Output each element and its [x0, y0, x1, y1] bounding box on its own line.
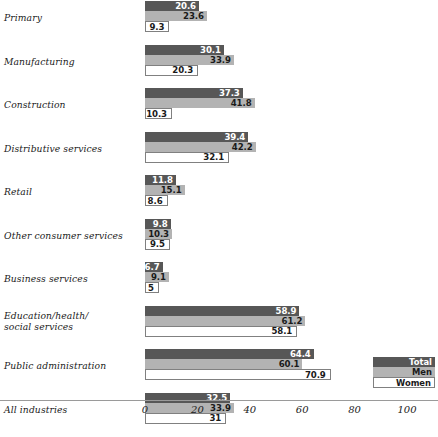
- bar-value-label: 10.3: [148, 229, 169, 239]
- bar-value-label: 15.1: [161, 185, 182, 195]
- bar-group: 58.961.258.1: [145, 305, 438, 349]
- bar-women: 9.5: [145, 239, 170, 250]
- bar-chart: Primary20.623.69.3Manufacturing30.133.92…: [0, 0, 438, 437]
- bar-value-label: 32.1: [203, 152, 224, 162]
- chart-row: Construction37.341.810.3: [0, 87, 438, 131]
- legend-label: Women: [396, 378, 431, 388]
- bar-total: 64.4: [145, 349, 314, 359]
- bar-women: 20.3: [145, 65, 198, 76]
- category-label: Manufacturing: [4, 56, 136, 68]
- bar-total: 37.3: [145, 88, 243, 98]
- category-label: Primary: [4, 12, 136, 24]
- chart-row: Education/health/social services58.961.2…: [0, 305, 438, 349]
- bar-value-label: 6.7: [145, 262, 160, 272]
- legend-item-women: Women: [373, 377, 435, 388]
- legend-item-total: Total: [373, 357, 435, 367]
- bar-women: 9.3: [145, 21, 169, 32]
- category-label: Construction: [4, 99, 136, 111]
- bar-value-label: 10.3: [146, 109, 167, 119]
- category-label: Business services: [4, 273, 136, 285]
- chart-row: Business services6.79.15: [0, 261, 438, 305]
- x-tick-label: 40: [243, 404, 256, 415]
- bar-value-label: 41.8: [231, 98, 252, 108]
- bar-value-label: 33.9: [210, 55, 231, 65]
- bar-value-label: 39.4: [224, 132, 245, 142]
- chart-row: Retail11.815.18.6: [0, 174, 438, 218]
- bar-men: 10.3: [145, 229, 172, 239]
- bar-value-label: 64.4: [290, 349, 311, 359]
- bar-men: 9.1: [145, 272, 169, 282]
- x-tick-label: 100: [397, 404, 416, 415]
- bar-group: 37.341.810.3: [145, 87, 438, 131]
- bar-total: 30.1: [145, 45, 224, 55]
- category-label: Education/health/social services: [4, 310, 136, 333]
- chart-row: Other consumer services9.810.39.5: [0, 218, 438, 262]
- bar-total: 6.7: [145, 262, 163, 272]
- bar-men: 23.6: [145, 11, 207, 21]
- bar-value-label: 30.1: [200, 45, 221, 55]
- bar-total: 32.5: [145, 393, 230, 403]
- bar-value-label: 20.3: [172, 65, 193, 75]
- legend-label: Men: [412, 367, 432, 377]
- bar-total: 20.6: [145, 1, 199, 11]
- x-axis-line: [0, 400, 438, 401]
- bar-women: 70.9: [145, 369, 331, 380]
- bar-value-label: 20.6: [175, 1, 196, 11]
- bar-value-label: 37.3: [219, 88, 240, 98]
- bar-value-label: 9.3: [149, 22, 164, 32]
- category-label: Public administration: [4, 360, 136, 372]
- bar-group: 39.442.232.1: [145, 131, 438, 175]
- x-tick-label: 20: [191, 404, 204, 415]
- chart-row: Primary20.623.69.3: [0, 0, 438, 44]
- bar-value-label: 9.8: [153, 219, 168, 229]
- bar-value-label: 42.2: [232, 142, 253, 152]
- bar-group: 20.623.69.3: [145, 0, 438, 44]
- x-tick-label: 60: [296, 404, 309, 415]
- chart-legend: TotalMenWomen: [373, 357, 435, 388]
- bar-value-label: 60.1: [279, 359, 300, 369]
- chart-row: Distributive services39.442.232.1: [0, 131, 438, 175]
- bar-men: 60.1: [145, 359, 302, 369]
- bar-value-label: 8.6: [148, 196, 163, 206]
- chart-row: Manufacturing30.133.920.3: [0, 44, 438, 88]
- bar-value-label: 23.6: [183, 11, 204, 21]
- category-label: Distributive services: [4, 143, 136, 155]
- bar-group: 30.133.920.3: [145, 44, 438, 88]
- bar-group: 6.79.15: [145, 261, 438, 305]
- bar-group: 9.810.39.5: [145, 218, 438, 262]
- bar-value-label: 58.1: [271, 326, 292, 336]
- bar-women: 5: [145, 282, 159, 293]
- category-label: Retail: [4, 186, 136, 198]
- bar-men: 41.8: [145, 98, 255, 108]
- bar-value-label: 9.1: [151, 272, 166, 282]
- bar-men: 61.2: [145, 316, 305, 326]
- bar-total: 9.8: [145, 219, 171, 229]
- bar-total: 39.4: [145, 132, 248, 142]
- bar-women: 32.1: [145, 152, 229, 163]
- bar-value-label: 61.2: [282, 316, 303, 326]
- bar-women: 10.3: [145, 108, 172, 119]
- x-tick-label: 80: [348, 404, 361, 415]
- bar-value-label: 32.5: [206, 393, 227, 403]
- bar-value-label: 9.5: [150, 239, 165, 249]
- bar-value-label: 58.9: [276, 306, 297, 316]
- bar-men: 42.2: [145, 142, 256, 152]
- bar-value-label: 5: [148, 283, 154, 293]
- x-axis-ticks: 020406080100: [0, 404, 438, 424]
- bar-women: 58.1: [145, 326, 297, 337]
- bar-total: 11.8: [145, 175, 176, 185]
- bar-value-label: 11.8: [152, 175, 173, 185]
- bar-group: 11.815.18.6: [145, 174, 438, 218]
- bar-men: 33.9: [145, 55, 234, 65]
- bar-value-label: 70.9: [305, 370, 326, 380]
- category-label: Other consumer services: [4, 230, 136, 242]
- legend-item-men: Men: [373, 367, 435, 377]
- bar-women: 8.6: [145, 195, 168, 206]
- x-tick-label: 0: [142, 404, 148, 415]
- bar-men: 15.1: [145, 185, 185, 195]
- bar-total: 58.9: [145, 306, 299, 316]
- legend-label: Total: [409, 357, 432, 367]
